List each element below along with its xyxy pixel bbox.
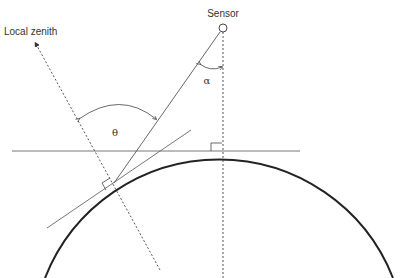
local-tangent-line bbox=[47, 130, 191, 228]
local-zenith-label: Local zenith bbox=[4, 26, 57, 37]
nadir-right-angle-icon bbox=[211, 143, 222, 151]
alpha-angle-arc bbox=[200, 64, 222, 69]
earth-surface bbox=[45, 160, 393, 278]
local-zenith-arrow bbox=[36, 44, 160, 270]
sensor-label: Sensor bbox=[207, 8, 239, 19]
theta-angle-arc bbox=[79, 105, 156, 120]
theta-label: θ bbox=[112, 127, 118, 138]
sensor-icon bbox=[219, 24, 227, 32]
diagram-canvas: Sensor Local zenith θ α bbox=[0, 0, 406, 278]
alpha-label: α bbox=[204, 75, 211, 86]
